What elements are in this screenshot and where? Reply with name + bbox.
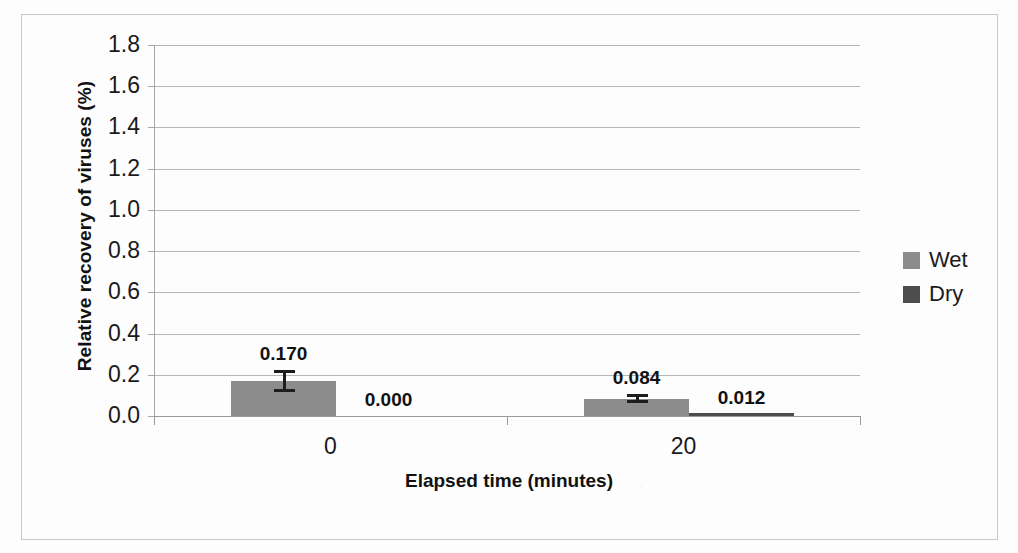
y-axis-tick (148, 45, 155, 46)
y-axis-tick (148, 210, 155, 211)
y-axis-tick (148, 292, 155, 293)
gridline (154, 251, 860, 252)
legend-label-dry: Dry (929, 283, 963, 305)
x-axis-tick (860, 416, 861, 425)
y-axis-tick (148, 375, 155, 376)
bar-dry-20[interactable] (689, 413, 794, 416)
x-axis-tick (154, 416, 155, 425)
x-axis-tick (507, 416, 508, 425)
y-axis-tick-label: 1.6 (70, 74, 140, 97)
legend-swatch-wet (903, 252, 920, 269)
bar-value-label-wet-20: 0.084 (574, 368, 699, 387)
y-axis-tick-label: 1.2 (70, 157, 140, 180)
y-axis-tick-label: 1.0 (70, 198, 140, 221)
gridline (154, 45, 860, 46)
y-axis-tick-label: 0.4 (70, 322, 140, 345)
y-axis-tick-label: 1.8 (70, 33, 140, 56)
error-bar-cap-bottom (274, 389, 295, 392)
x-axis-title: Elapsed time (minutes) (0, 470, 1018, 492)
chart-page: Relative recovery of viruses (%) 0.1700.… (0, 0, 1018, 553)
legend-swatch-dry (903, 286, 920, 303)
gridline (154, 127, 860, 128)
x-axis-tick-label: 20 (507, 435, 860, 458)
error-bar-cap-bottom (627, 400, 648, 403)
error-bar-wet-20 (627, 394, 648, 403)
x-axis-tick-label: 0 (154, 435, 507, 458)
legend-item-dry[interactable]: Dry (903, 277, 993, 311)
plot-area: 0.1700.0000.0840.012 (154, 45, 860, 416)
legend-item-wet[interactable]: Wet (903, 243, 993, 277)
gridline (154, 334, 860, 335)
gridline (154, 86, 860, 87)
gridline (154, 210, 860, 211)
bar-value-label-dry-0: 0.000 (326, 390, 451, 409)
error-bar-wet-0 (274, 370, 295, 393)
y-axis-tick (148, 334, 155, 335)
y-axis-tick (148, 251, 155, 252)
legend-label-wet: Wet (929, 249, 968, 271)
y-axis-tick (148, 169, 155, 170)
y-axis-tick (148, 86, 155, 87)
chart-legend: Wet Dry (903, 243, 993, 311)
y-axis-tick-label: 0.2 (70, 363, 140, 386)
y-axis-tick (148, 127, 155, 128)
gridline (154, 292, 860, 293)
bar-value-label-wet-0: 0.170 (221, 344, 346, 363)
gridline (154, 169, 860, 170)
y-axis-tick-label: 0.8 (70, 239, 140, 262)
y-axis-tick-label: 0.0 (70, 404, 140, 427)
y-axis-tick-label: 1.4 (70, 115, 140, 138)
y-axis-tick-label: 0.6 (70, 280, 140, 303)
bar-value-label-dry-20: 0.012 (679, 388, 804, 407)
gridline (154, 375, 860, 376)
